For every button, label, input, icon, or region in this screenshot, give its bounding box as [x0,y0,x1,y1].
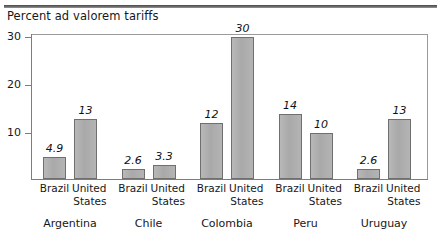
series-label-line: United [386,182,421,194]
bar-value-label: 2.6 [360,154,378,167]
series-label-united-states: UnitedStates [65,182,107,207]
y-tick-mark [25,85,32,86]
bar-uruguay-united-states [388,119,411,179]
series-label-line: United [151,182,186,194]
series-label-united-states: UnitedStates [222,182,264,207]
series-label-united-states: UnitedStates [300,182,342,207]
series-label-line: States [387,195,420,207]
bar-value-label: 12 [205,108,219,121]
series-label-line: States [309,195,342,207]
bar-value-label: 4.9 [46,142,64,155]
y-tick-mark [25,133,32,134]
y-tick-label: 20 [7,78,21,91]
group-label-colombia: Colombia [201,217,253,230]
y-tick-30: 30 [25,37,32,38]
series-label-line: States [152,195,185,207]
y-axis-line [31,34,32,180]
bar-value-label: 13 [79,104,93,117]
bar-argentina-brazil [43,157,66,179]
bar-colombia-united-states [231,37,254,179]
y-tick-label: 30 [7,30,21,43]
group-label-peru: Peru [293,217,318,230]
series-label-line: United [308,182,343,194]
bar-value-label: 14 [283,99,297,112]
bar-value-label: 30 [236,22,250,35]
group-label-uruguay: Uruguay [361,217,408,230]
group-label-argentina: Argentina [43,217,97,230]
x-axis-line [31,179,428,180]
bar-value-label: 3.3 [155,150,173,163]
top-divider-rule [4,5,437,8]
chart-figure: Percent ad valorem tariffs 102030 4.9Bra… [0,0,441,244]
y-tick-10: 10 [25,133,32,134]
bar-peru-united-states [310,133,333,179]
group-label-chile: Chile [135,217,163,230]
y-tick-mark [25,37,32,38]
series-label-line: States [230,195,263,207]
bar-uruguay-brazil [357,169,380,179]
bar-chile-brazil [122,169,145,179]
y-tick-label: 10 [7,126,21,139]
bar-chile-united-states [153,165,176,179]
bar-value-label: 10 [314,118,328,131]
bar-value-label: 13 [393,104,407,117]
series-label-united-states: UnitedStates [379,182,421,207]
bar-argentina-united-states [74,119,97,179]
bar-peru-brazil [279,114,302,179]
series-label-line: United [72,182,107,194]
series-label-line: United [229,182,264,194]
y-tick-20: 20 [25,85,32,86]
bar-colombia-brazil [200,123,223,179]
series-label-united-states: UnitedStates [143,182,185,207]
series-label-line: States [73,195,106,207]
chart-title: Percent ad valorem tariffs [7,9,159,23]
bar-value-label: 2.6 [124,154,142,167]
